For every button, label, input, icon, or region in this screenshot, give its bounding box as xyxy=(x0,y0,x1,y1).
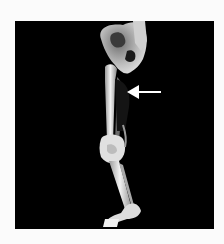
foot xyxy=(103,204,141,227)
ct-image-panel xyxy=(15,21,214,229)
skeleton-illustration xyxy=(15,21,214,229)
soft-tissue-region xyxy=(115,79,129,131)
arrow-annotation-icon xyxy=(127,85,161,99)
